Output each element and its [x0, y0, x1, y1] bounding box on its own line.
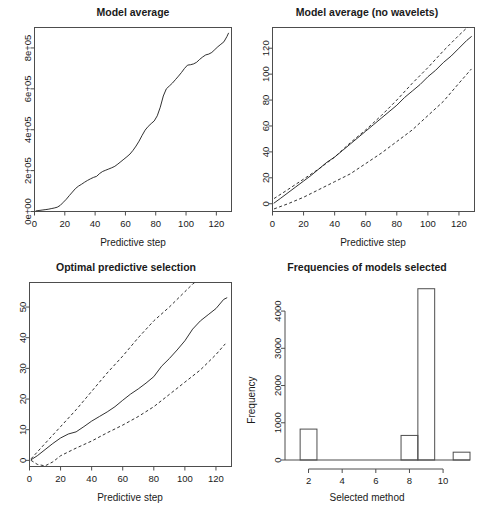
panel-title: Frequencies of models selected	[287, 261, 446, 273]
series-line-mean	[31, 298, 227, 460]
data-series	[36, 33, 228, 211]
x-tick-label: 40	[86, 473, 97, 484]
x-tick-label: 0	[270, 218, 275, 229]
histogram-bar	[453, 452, 470, 460]
histogram-bars	[285, 289, 470, 460]
x-tick-label: 60	[360, 218, 371, 229]
histogram-bar	[300, 429, 317, 460]
x-axis-ticks: 020406080100120	[32, 212, 224, 229]
data-series	[31, 276, 227, 466]
histogram-bar	[401, 435, 418, 460]
panel-frequencies-svg: Frequencies of models selected 010002000…	[243, 255, 486, 510]
y-axis-label: Frequency	[246, 376, 257, 423]
y-tick-label: 50	[17, 302, 28, 313]
panel-frequencies-of-models-selected: Frequencies of models selected 010002000…	[243, 255, 486, 510]
y-tick-label: 0	[272, 457, 283, 462]
y-tick-label: 20	[260, 173, 271, 184]
x-tick-label: 8	[407, 475, 412, 486]
x-tick-label: 40	[329, 218, 340, 229]
x-tick-label: 0	[32, 218, 37, 229]
y-tick-label: 120	[260, 40, 271, 56]
x-tick-label: 80	[150, 218, 161, 229]
x-tick-label: 60	[120, 218, 131, 229]
y-tick-label: 80	[260, 95, 271, 106]
panel-model-average-svg: Model average 0e+002e+054e+056e+058e+05 …	[0, 0, 243, 255]
y-tick-label: 4e+05	[22, 116, 33, 143]
x-tick-label: 100	[178, 218, 194, 229]
y-tick-label: 40	[260, 147, 271, 158]
x-tick-label: 120	[451, 218, 467, 229]
x-tick-label: 120	[208, 473, 224, 484]
x-axis-label: Selected method	[329, 492, 404, 503]
y-tick-label: 3000	[272, 338, 283, 359]
x-axis-ticks: 020406080100120	[270, 212, 467, 229]
panel-model-average-no-wavelets-svg: Model average (no wavelets) 020406080100…	[243, 0, 486, 255]
series-line-upper-band	[31, 276, 203, 458]
y-tick-label: 20	[17, 394, 28, 405]
y-tick-label: 8e+05	[22, 35, 33, 62]
y-tick-label: 0	[260, 201, 271, 206]
figure-panel-grid: Model average 0e+002e+054e+056e+058e+05 …	[0, 0, 486, 510]
x-tick-label: 2	[306, 475, 311, 486]
y-tick-label: 100	[260, 66, 271, 82]
series-line-lower-band	[274, 69, 471, 209]
y-tick-label: 6e+05	[22, 75, 33, 102]
y-tick-label: 40	[17, 332, 28, 343]
panel-title: Optimal predictive selection	[56, 261, 196, 273]
panel-optimal-predictive-selection-svg: Optimal predictive selection 01020304050…	[0, 255, 243, 510]
histogram-bar	[418, 289, 435, 460]
y-tick-label: 4000	[272, 300, 283, 321]
x-tick-label: 10	[438, 475, 449, 486]
x-axis-label: Predictive step	[97, 492, 163, 503]
x-tick-label: 80	[392, 218, 403, 229]
y-tick-label: 60	[260, 121, 271, 132]
data-series	[274, 24, 471, 209]
y-axis-ticks: 020406080100120	[260, 40, 273, 206]
x-tick-label: 20	[298, 218, 309, 229]
series-line-lower-band	[31, 344, 225, 466]
series-line-mean	[274, 37, 471, 204]
x-tick-label: 4	[340, 475, 345, 486]
panel-title: Model average	[97, 6, 170, 18]
x-tick-label: 20	[55, 473, 66, 484]
series-line-cumulative-predictive-loss	[36, 33, 228, 211]
x-tick-label: 80	[149, 473, 160, 484]
panel-title: Model average (no wavelets)	[296, 6, 438, 18]
y-tick-label: 10	[17, 424, 28, 435]
y-axis: 01000200030004000	[272, 300, 285, 462]
x-tick-label: 60	[117, 473, 128, 484]
panel-model-average-no-wavelets: Model average (no wavelets) 020406080100…	[243, 0, 486, 255]
x-tick-label: 100	[420, 218, 436, 229]
x-axis-label: Predictive step	[100, 237, 166, 248]
x-axis-ticks: 020406080100120	[27, 467, 224, 484]
y-axis-ticks: 01020304050	[17, 302, 30, 463]
plot-frame	[35, 28, 232, 212]
y-tick-label: 0	[17, 458, 28, 463]
x-axis: 246810	[306, 469, 448, 486]
y-tick-label: 1000	[272, 412, 283, 433]
plot-frame	[273, 28, 475, 212]
panel-optimal-predictive-selection: Optimal predictive selection 01020304050…	[0, 255, 243, 510]
series-line-upper-band	[274, 24, 471, 199]
y-axis-ticks: 0e+002e+054e+056e+058e+05	[22, 35, 35, 225]
x-tick-label: 6	[373, 475, 378, 486]
x-tick-label: 120	[208, 218, 224, 229]
x-tick-label: 100	[177, 473, 193, 484]
x-axis-label: Predictive step	[340, 237, 406, 248]
x-tick-label: 20	[60, 218, 71, 229]
y-tick-label: 30	[17, 363, 28, 374]
x-tick-label: 40	[90, 218, 101, 229]
y-tick-label: 2000	[272, 375, 283, 396]
panel-model-average: Model average 0e+002e+054e+056e+058e+05 …	[0, 0, 243, 255]
x-tick-label: 0	[27, 473, 32, 484]
y-tick-label: 2e+05	[22, 157, 33, 184]
